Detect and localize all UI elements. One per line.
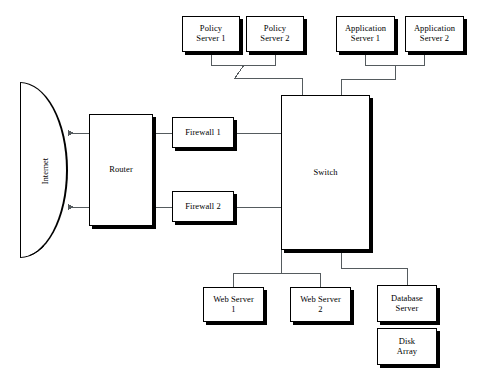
web-server-1-label: Web Server 1: [211, 295, 256, 314]
node-application-server-1[interactable]: Application Server 1: [336, 16, 395, 52]
node-firewall-1[interactable]: Firewall 1: [172, 117, 234, 148]
wire-policy-bus-to-switch: [235, 65, 302, 95]
node-database-server[interactable]: Database Server: [377, 285, 437, 322]
wire-app-bus-to-switch: [341, 65, 395, 95]
switch-label: Switch: [311, 168, 339, 178]
policy-server-2-label: Policy Server 2: [258, 24, 291, 43]
node-policy-server-1[interactable]: Policy Server 1: [182, 16, 240, 52]
node-router[interactable]: Router: [89, 114, 153, 226]
node-firewall-2[interactable]: Firewall 2: [172, 191, 234, 222]
router-label: Router: [107, 165, 135, 175]
database-server-label: Database Server: [389, 294, 425, 313]
policy-server-1-label: Policy Server 1: [194, 24, 227, 43]
internet-label: Internet: [40, 158, 50, 184]
internet-cloud: Internet: [20, 82, 68, 258]
wire-policy1-bus: [211, 52, 244, 65]
node-switch[interactable]: Switch: [281, 95, 370, 250]
firewall-1-label: Firewall 1: [183, 128, 223, 138]
node-disk-array[interactable]: Disk Array: [377, 328, 437, 365]
network-diagram: Internet Policy Server 1 Policy Server 2…: [0, 0, 488, 387]
node-policy-server-2[interactable]: Policy Server 2: [246, 16, 304, 52]
internet-label-wrap: Internet: [21, 83, 69, 259]
wire-policy2-bus: [244, 52, 275, 65]
node-web-server-1[interactable]: Web Server 1: [203, 287, 264, 322]
wire-switch-webtrunk: [233, 250, 281, 287]
wire-switch-webserver2: [281, 273, 320, 287]
firewall-2-label: Firewall 2: [183, 202, 223, 212]
wire-app2-bus: [395, 52, 424, 65]
node-application-server-2[interactable]: Application Server 2: [405, 16, 464, 52]
application-server-1-label: Application Server 1: [343, 24, 388, 43]
wire-app1-bus: [365, 52, 395, 65]
wire-switch-database: [341, 250, 407, 285]
web-server-2-label: Web Server 2: [298, 295, 343, 314]
disk-array-label: Disk Array: [395, 337, 419, 356]
application-server-2-label: Application Server 2: [412, 24, 457, 43]
node-web-server-2[interactable]: Web Server 2: [290, 287, 351, 322]
